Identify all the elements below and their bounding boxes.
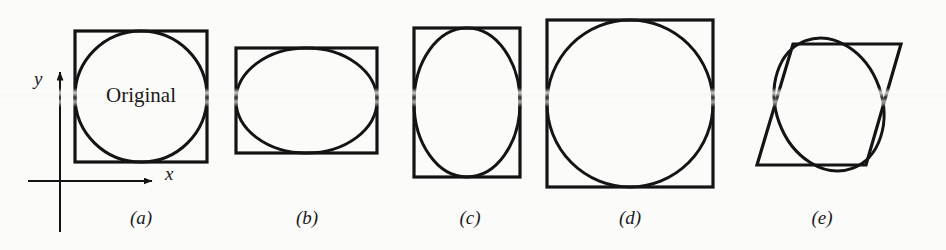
- panel-caption-b: (b): [296, 207, 318, 229]
- y-axis-label: y: [34, 68, 42, 90]
- panel-d-circle: [547, 20, 713, 187]
- panel-d-geometry: [547, 20, 713, 187]
- panel-a-original-label: Original: [106, 83, 176, 108]
- panel-caption-c: (c): [459, 207, 480, 229]
- panel-e-parallelogram: [757, 44, 901, 165]
- panel-caption-e: (e): [811, 207, 832, 229]
- panel-e-ellipse: [756, 22, 902, 186]
- figure-canvas: y x Original (a) (b) (c) (d) (e): [0, 0, 946, 250]
- panel-e-geometry: [756, 22, 902, 186]
- panel-b-geometry: [236, 48, 377, 153]
- panel-b-ellipse: [236, 48, 377, 153]
- panel-c-geometry: [414, 28, 520, 177]
- panel-caption-a: (a): [130, 207, 152, 229]
- panel-c-ellipse: [414, 28, 520, 177]
- x-axis-label: x: [165, 163, 173, 185]
- panel-caption-d: (d): [619, 207, 641, 229]
